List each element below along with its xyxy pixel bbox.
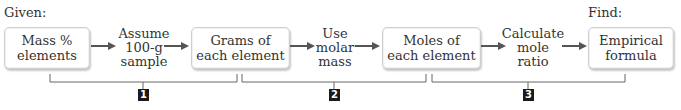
box-moles-line2: each element — [387, 48, 475, 63]
step-number-badge-3: 3 — [523, 89, 534, 101]
step-assume-line1: Assume — [118, 27, 169, 41]
arrow-right-icon — [355, 40, 381, 52]
step-assume-line2: 100-g — [118, 41, 169, 55]
box-moles-line1: Moles of — [387, 33, 475, 48]
step-molar-line3: mass — [316, 55, 354, 69]
box-grams-each-element: Grams of each element — [191, 27, 290, 69]
step-ratio-line1: Calculate — [502, 27, 564, 41]
box-empirical-formula: Empirical formula — [588, 27, 674, 69]
step-number-badge-2: 2 — [329, 89, 340, 101]
find-label: Find: — [588, 6, 622, 20]
step-number-badge-1: 1 — [138, 89, 149, 101]
step-molar-line2: molar — [316, 41, 354, 55]
step-molar-line1: Use — [316, 27, 354, 41]
box-empirical-line1: Empirical — [599, 33, 663, 48]
box-grams-line1: Grams of — [196, 33, 284, 48]
given-label: Given: — [4, 6, 46, 20]
step-ratio-line2: mole ratio — [502, 41, 564, 69]
bracket-step-3 — [431, 73, 627, 89]
step-use-molar-mass: Use molar mass — [310, 25, 360, 71]
step-assume-line3: sample — [118, 55, 169, 69]
box-mass-percent-line2: elements — [17, 48, 77, 63]
box-empirical-line2: formula — [599, 48, 663, 63]
box-mass-percent: Mass % elements — [4, 27, 90, 69]
bracket-step-1 — [49, 73, 239, 89]
bracket-step-2 — [241, 73, 428, 89]
box-moles-each-element: Moles of each element — [382, 27, 481, 69]
arrow-right-icon — [562, 40, 588, 52]
step-calculate-mole-ratio: Calculate mole ratio — [503, 28, 563, 68]
box-grams-line2: each element — [196, 48, 284, 63]
box-mass-percent-line1: Mass % — [17, 33, 77, 48]
arrow-right-icon — [164, 40, 190, 52]
